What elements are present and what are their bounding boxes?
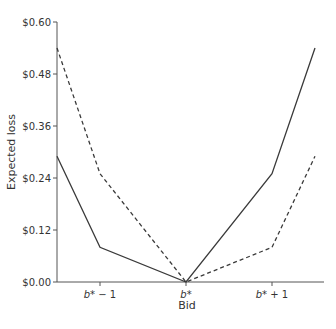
x-tick-label: b* − 1 [84, 289, 116, 300]
x-axis-ticks: b* − 1b*b* + 1 [84, 282, 288, 300]
y-axis-label: Expected loss [5, 114, 18, 190]
y-tick-label: $0.12 [22, 225, 51, 236]
y-tick-label: $0.36 [22, 121, 51, 132]
data-lines [57, 48, 315, 282]
y-tick-label: $0.24 [22, 173, 51, 184]
series-dashed-line [57, 48, 315, 282]
y-axis-ticks: $0.00$0.12$0.24$0.36$0.48$0.60 [22, 17, 57, 288]
line-chart: $0.00$0.12$0.24$0.36$0.48$0.60 b* − 1b*b… [0, 0, 336, 329]
y-tick-label: $0.00 [22, 277, 51, 288]
x-axis-label: Bid [178, 299, 196, 312]
y-tick-label: $0.60 [22, 17, 51, 28]
axes [57, 22, 324, 282]
series-solid-line [57, 48, 315, 282]
x-tick-label: b* + 1 [256, 289, 288, 300]
y-tick-label: $0.48 [22, 69, 51, 80]
